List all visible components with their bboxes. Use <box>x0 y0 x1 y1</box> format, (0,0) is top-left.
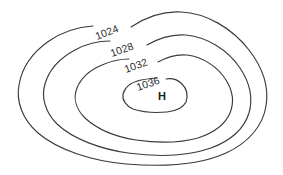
contour-label-1024: 1024 <box>93 22 120 42</box>
contour-label-1028: 1028 <box>109 39 135 58</box>
contour-map-figure: 1024 1028 1032 1036 H <box>0 0 283 175</box>
contour-line-1028 <box>44 35 251 155</box>
contour-diagram: 1024 1028 1032 1036 H <box>0 0 283 175</box>
high-pressure-center-label: H <box>158 90 166 102</box>
contour-label-1032: 1032 <box>123 55 149 74</box>
contour-line-1032 <box>75 55 232 142</box>
